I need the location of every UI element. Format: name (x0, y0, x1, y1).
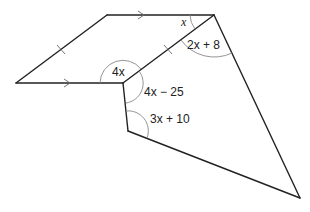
geometry-diagram: x 2x + 8 4x 4x − 25 3x + 10 (0, 0, 310, 212)
arc-angle-x (190, 15, 195, 29)
tick-left-slant (57, 45, 65, 54)
label-2x-plus-8: 2x + 8 (187, 38, 220, 52)
right-edge (214, 15, 300, 198)
angle-labels: x 2x + 8 4x 4x − 25 3x + 10 (112, 15, 220, 126)
label-4x-minus-25: 4x − 25 (144, 85, 184, 99)
arc-angle-4x-minus-25 (126, 71, 143, 103)
tick-diagonal (164, 45, 172, 54)
label-x: x (180, 15, 187, 29)
left-slant-edge (16, 15, 107, 83)
lower-edge (128, 131, 300, 198)
equal-ticks (57, 45, 172, 54)
label-3x-plus-10: 3x + 10 (150, 112, 190, 126)
label-4x: 4x (112, 65, 125, 79)
inner-vertical-edge (123, 83, 128, 131)
edges (16, 15, 300, 198)
